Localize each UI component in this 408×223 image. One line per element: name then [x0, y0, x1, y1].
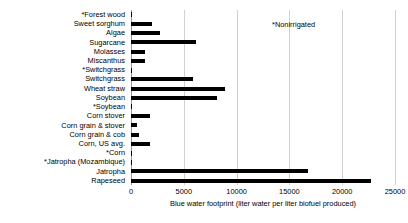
blue-water-footprint-bar-chart: *Forest woodSweet sorghumAlgaeSugarcaneM… [0, 0, 408, 223]
bar [131, 77, 193, 81]
bar [131, 40, 196, 44]
x-tick-label-20000: 20000 [332, 187, 353, 196]
x-tick-label-15000: 15000 [279, 187, 300, 196]
bar [131, 96, 217, 100]
x-tick-label-10000: 10000 [226, 187, 247, 196]
bar [131, 123, 137, 127]
bar [131, 142, 150, 146]
y-axis-label: Rapeseed [91, 176, 125, 186]
bar [131, 133, 139, 137]
bar [131, 31, 160, 35]
bar-row [131, 176, 395, 186]
bar [131, 169, 308, 173]
bar [131, 151, 132, 156]
x-axis-title: Blue water footprint (liter water per li… [131, 199, 395, 208]
x-tick-label-0: 0 [129, 187, 133, 196]
bar [131, 87, 225, 91]
bar [131, 160, 132, 165]
bar [131, 114, 150, 118]
bar [131, 59, 145, 63]
bar [131, 179, 371, 183]
bar [131, 50, 145, 54]
nonirrigated-annotation: *Nonirrigated [272, 20, 315, 29]
plot-area [131, 10, 395, 185]
bar [131, 68, 132, 73]
y-axis-category-labels: *Forest woodSweet sorghumAlgaeSugarcaneM… [0, 10, 128, 185]
x-tick-label-5000: 5000 [176, 187, 192, 196]
x-tick-label-25000: 25000 [385, 187, 406, 196]
bar [131, 12, 132, 17]
gridline-25000 [395, 10, 396, 185]
bar [131, 22, 152, 26]
bar [131, 104, 132, 109]
